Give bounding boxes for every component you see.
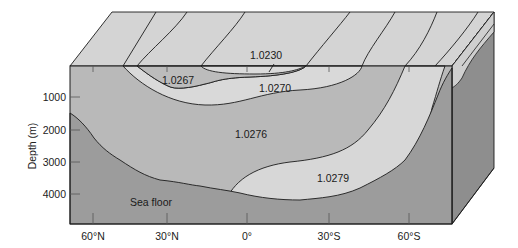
depth-tick-1000: 1000 [43, 91, 67, 103]
label-density-surface: 1.0230 [250, 49, 282, 61]
depth-axis-title: Depth (m) [26, 123, 38, 170]
label-density-deep: 1.0276 [235, 128, 267, 140]
depth-tick-2000: 2000 [43, 124, 67, 136]
depth-tick-4000: 4000 [43, 188, 67, 200]
lat-tick-30n: 30°N [155, 230, 178, 242]
depth-tick-3000: 3000 [43, 156, 67, 168]
lat-tick-60s: 60°S [398, 230, 421, 242]
lat-tick-30s: 30°S [318, 230, 341, 242]
lat-tick-0: 0° [242, 230, 252, 242]
label-sea-floor: Sea floor [130, 196, 173, 208]
lat-tick-60n: 60°N [81, 230, 104, 242]
label-density-north-shallow: 1.0267 [162, 74, 194, 86]
label-density-bottom: 1.0279 [317, 172, 349, 184]
ocean-density-block-diagram: 1.0230 1.0267 1.0270 1.0276 1.0279 Sea f… [0, 0, 518, 248]
label-density-intermediate: 1.0270 [259, 82, 291, 94]
